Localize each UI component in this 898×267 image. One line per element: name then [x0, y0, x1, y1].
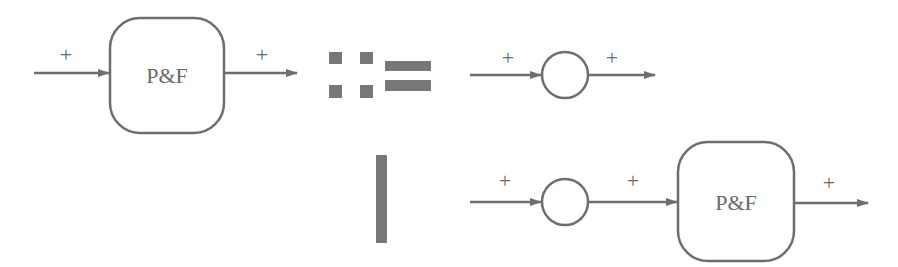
- rhs-option-2: + + P&F +: [470, 142, 868, 261]
- equals-bar: [385, 61, 431, 71]
- opt2-input-sign: +: [499, 168, 511, 193]
- opt2-empty-node: [542, 179, 588, 225]
- lhs-input-sign: +: [60, 42, 72, 67]
- colon-dot: [360, 85, 373, 98]
- opt2-mid-sign: +: [627, 168, 639, 193]
- opt2-pf-label: P&F: [715, 190, 757, 215]
- colon-dot: [329, 52, 342, 64]
- opt1-empty-node: [542, 52, 588, 98]
- definition-symbol: [329, 52, 431, 98]
- equals-bar: [385, 80, 431, 91]
- colon-dot: [360, 52, 373, 64]
- lhs-pf-label: P&F: [146, 63, 188, 88]
- rhs-option-1: + +: [470, 45, 655, 98]
- opt2-output-sign: +: [823, 170, 835, 195]
- alternative-bar: [376, 155, 387, 243]
- opt1-input-sign: +: [502, 45, 514, 70]
- grammar-rule-diagram: + P&F + + + + + P&F +: [0, 0, 898, 267]
- opt1-output-sign: +: [606, 45, 618, 70]
- lhs-output-sign: +: [256, 42, 268, 67]
- lhs-production: + P&F +: [34, 18, 297, 133]
- colon-dot: [329, 85, 342, 98]
